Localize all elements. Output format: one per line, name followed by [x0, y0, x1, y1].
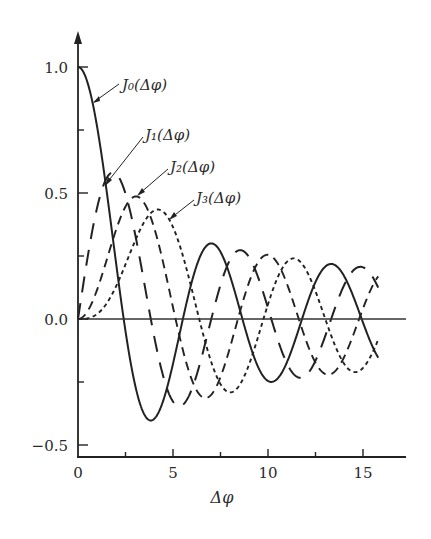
label-j3: J₃(Δφ)	[193, 189, 241, 207]
y-tick-label-1: 1.0	[44, 59, 68, 77]
label-j1: J₁(Δφ)	[142, 126, 190, 144]
bessel-function-chart: 1.0 0.5 0.0 −0.5 0 5 10 15 Δφ J₀(Δφ) J₁(…	[0, 0, 431, 539]
leader-j1	[106, 137, 143, 184]
y-axis-arrow-icon	[74, 31, 82, 44]
label-j2: J₂(Δφ)	[167, 158, 215, 176]
curve-j2	[78, 196, 378, 398]
x-tick-label-15: 15	[353, 464, 372, 482]
y-tick-labels: 1.0 0.5 0.0 −0.5	[32, 59, 68, 455]
x-tick-label-5: 5	[168, 464, 178, 482]
ticks	[78, 67, 363, 457]
x-tick-label-0: 0	[73, 464, 83, 482]
leader-j0-arrow-icon	[93, 96, 100, 103]
label-j0: J₀(Δφ)	[119, 76, 167, 94]
plot-area	[78, 67, 378, 421]
x-tick-labels: 0 5 10 15	[73, 464, 372, 482]
y-tick-label-0: 0.0	[44, 311, 68, 329]
leader-j2-arrow-icon	[137, 188, 145, 196]
x-tick-label-10: 10	[258, 464, 277, 482]
curve-j1	[78, 172, 378, 406]
axes	[74, 31, 406, 457]
curve-j3	[78, 210, 378, 393]
curve-annotations: J₀(Δφ) J₁(Δφ) J₂(Δφ) J₃(Δφ)	[93, 76, 241, 220]
curve-j0	[78, 67, 378, 421]
x-axis-label: Δφ	[210, 488, 235, 507]
leader-j3-arrow-icon	[169, 212, 177, 220]
y-tick-label-0-5: 0.5	[44, 185, 68, 203]
y-tick-label-neg-0-5: −0.5	[32, 437, 68, 455]
